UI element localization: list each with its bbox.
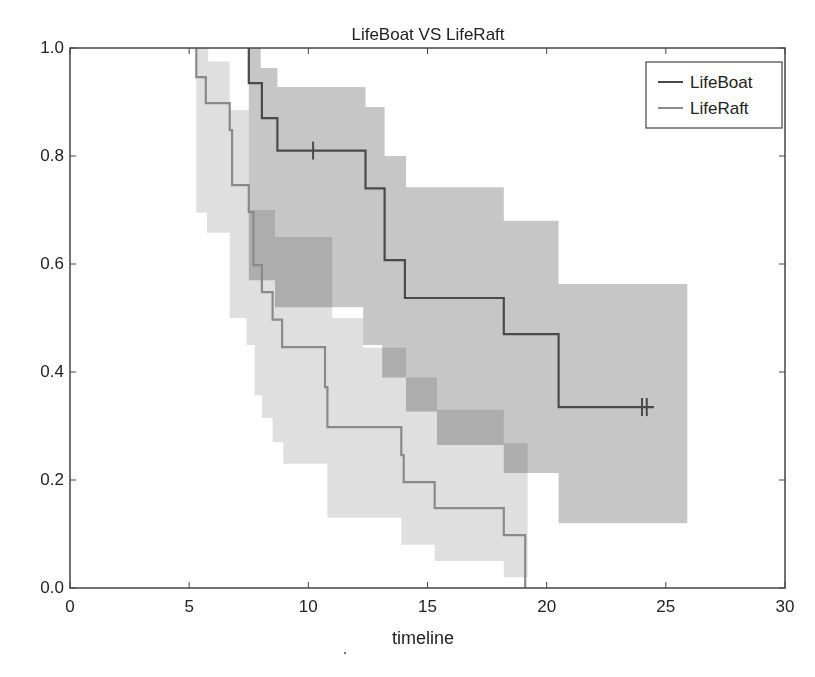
x-tick-label: 0	[65, 597, 74, 616]
y-tick-label: 0.4	[40, 362, 64, 381]
stray-dot	[344, 652, 346, 654]
legend-label-liferaft: LifeRaft	[690, 99, 749, 118]
chart-title: LifeBoat VS LifeRaft	[351, 25, 504, 44]
x-tick-label: 30	[776, 597, 795, 616]
x-tick-label: 10	[299, 597, 318, 616]
y-tick-label: 1.0	[40, 38, 64, 57]
y-tick-label: 0.0	[40, 578, 64, 597]
x-tick-label: 25	[656, 597, 675, 616]
legend: LifeBoat LifeRaft	[646, 62, 782, 128]
y-tick-label: 0.6	[40, 254, 64, 273]
x-tick-label: 15	[418, 597, 437, 616]
x-tick-label: 5	[184, 597, 193, 616]
legend-box	[646, 62, 782, 128]
x-axis-label: timeline	[392, 628, 454, 648]
y-tick-label: 0.8	[40, 146, 64, 165]
legend-label-lifeboat: LifeBoat	[690, 73, 753, 92]
km-survival-chart: LifeBoat VS LifeRaft 051015202530 0.00.2…	[0, 0, 815, 677]
x-tick-label: 20	[537, 597, 556, 616]
y-tick-label: 0.2	[40, 470, 64, 489]
